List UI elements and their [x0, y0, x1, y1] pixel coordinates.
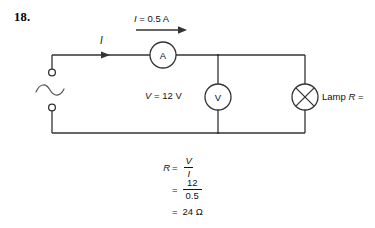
calc-fraction-numbers: 12 0.5 — [183, 178, 202, 201]
circuit-diagram: A V — [0, 0, 375, 150]
calc-lhs-r: R — [148, 162, 170, 173]
calc-line-1: R = V I — [148, 156, 203, 178]
calc-numerator: V — [183, 156, 195, 167]
voltmeter-letter: V — [215, 92, 222, 103]
current-arrow-head-icon — [178, 26, 187, 34]
calc-equals: = — [170, 162, 183, 173]
calc-numerator: 12 — [184, 178, 201, 189]
calc-denominator: 0.5 — [183, 189, 202, 201]
source-terminal-bottom-icon — [49, 104, 56, 111]
voltage-value-text: = 12 V — [151, 90, 181, 101]
voltage-value-label: V = 12 V — [145, 91, 182, 101]
ammeter-letter: A — [160, 50, 167, 61]
junction-dot — [217, 132, 219, 134]
calc-equals: = — [170, 206, 183, 217]
wire-current-arrowhead-icon — [101, 51, 110, 58]
current-symbol-label: I — [100, 36, 103, 46]
ac-source-sine-icon — [36, 85, 64, 95]
calculation-block: R = V I = 12 0.5 = 24 Ω — [148, 156, 203, 222]
calc-line-3: = 24 Ω — [148, 200, 203, 222]
current-value-label: I = 0.5 A — [134, 14, 169, 24]
lamp-label: Lamp R = — [322, 92, 363, 102]
circuit-problem-figure: 18. A V — [0, 0, 375, 228]
junction-dot — [217, 54, 219, 56]
source-terminal-top-icon — [49, 69, 56, 76]
calc-equals: = — [170, 184, 183, 195]
current-value-text: = 0.5 A — [137, 13, 170, 24]
calc-fraction-vi: V I — [183, 156, 195, 179]
calc-line-2: = 12 0.5 — [148, 178, 203, 200]
calc-result: 24 Ω — [183, 206, 203, 217]
